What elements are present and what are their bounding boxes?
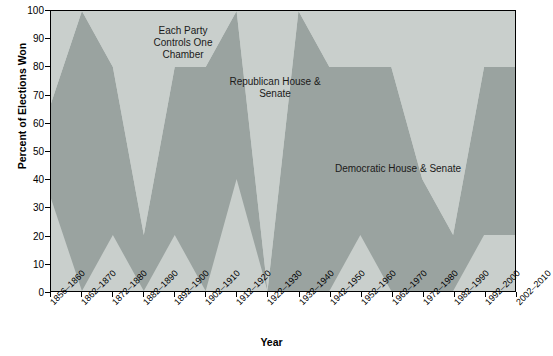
y-tick-label: 90 (33, 33, 44, 44)
y-tick-label: 50 (33, 146, 44, 157)
y-tick-label: 60 (33, 117, 44, 128)
x-axis: 1856–18601862–18701872–18801882–18901892… (0, 292, 543, 356)
y-tick-label: 40 (33, 174, 44, 185)
y-tick-label: 70 (33, 89, 44, 100)
y-tick-label: 100 (27, 5, 44, 16)
stacked-area-svg (51, 11, 515, 291)
y-tick-label: 20 (33, 230, 44, 241)
x-axis-title: Year (0, 336, 543, 348)
y-axis-title: Percent of Elections Won (16, 6, 28, 206)
plot-area: Each Party Controls One Chamber Republic… (50, 10, 516, 292)
y-axis: Percent of Elections Won 010203040506070… (0, 0, 50, 302)
annotation-republican: Republican House & Senate (215, 76, 335, 100)
y-tick-label: 80 (33, 61, 44, 72)
annotation-each-party: Each Party Controls One Chamber (133, 25, 233, 61)
y-tick-label: 30 (33, 202, 44, 213)
annotation-democratic: Democratic House & Senate (303, 163, 493, 175)
y-tick-label: 10 (33, 258, 44, 269)
